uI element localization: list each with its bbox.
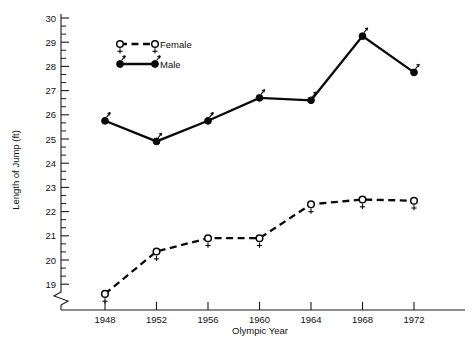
x-tick-label: 1960	[249, 314, 270, 325]
x-tick-label: 1968	[352, 314, 373, 325]
x-tick-label: 1952	[146, 314, 167, 325]
axis-break-zigzag-icon	[54, 288, 68, 310]
x-tick-label: 1964	[300, 314, 321, 325]
x-axis-title: Olympic Year	[232, 325, 288, 336]
male-symbol-icon	[109, 113, 110, 116]
data-point-male	[102, 117, 109, 124]
data-point-female	[153, 248, 160, 255]
data-point-male	[411, 69, 418, 76]
data-point-male	[256, 94, 263, 101]
legend-marker-female	[152, 41, 159, 48]
data-point-male	[153, 138, 160, 145]
y-tick-label: 22	[45, 206, 56, 217]
y-tick-label: 30	[45, 13, 56, 24]
x-tick-label: 1948	[94, 314, 115, 325]
male-symbol-icon	[264, 90, 265, 93]
y-tick-label: 29	[45, 37, 56, 48]
y-tick-label: 23	[45, 182, 56, 193]
male-symbol-icon	[124, 56, 125, 59]
data-point-female	[308, 201, 315, 208]
male-symbol-icon	[161, 133, 162, 136]
chart-canvas: 192021222324252627282930 194819521956196…	[0, 0, 473, 347]
legend-marker-male	[117, 61, 124, 68]
y-tick-label: 24	[45, 158, 56, 169]
x-tick-label: 1956	[197, 314, 218, 325]
y-tick-label: 25	[45, 134, 56, 145]
data-point-male	[308, 97, 315, 104]
y-axis: 192021222324252627282930	[45, 13, 69, 290]
male-symbol-icon	[315, 92, 316, 95]
legend-label-male: Male	[160, 59, 181, 70]
y-tick-label: 21	[45, 230, 56, 241]
y-tick-label: 20	[45, 255, 56, 266]
data-point-female	[359, 196, 366, 203]
x-tick-label: 1972	[403, 314, 424, 325]
y-tick-label: 26	[45, 109, 56, 120]
legend-marker-male	[152, 61, 159, 68]
data-point-female	[205, 235, 212, 242]
y-tick-label: 27	[45, 85, 56, 96]
male-symbol-icon	[418, 64, 419, 67]
data-point-female	[102, 291, 109, 298]
data-point-male	[205, 117, 212, 124]
male-symbol-icon	[367, 28, 368, 31]
y-tick-label: 28	[45, 61, 56, 72]
data-point-male	[359, 33, 366, 40]
data-series-group	[102, 28, 420, 303]
data-point-female	[256, 235, 263, 242]
legend-marker-female	[117, 41, 124, 48]
series-line-male	[105, 36, 414, 141]
legend-label-female: Female	[160, 39, 192, 50]
y-tick-label: 19	[45, 279, 56, 290]
data-point-female	[411, 197, 418, 204]
y-axis-title: Length of Jump (ft)	[10, 130, 21, 210]
y-axis-break-icon	[54, 288, 68, 310]
jump-length-line-chart: 192021222324252627282930 194819521956196…	[0, 0, 473, 347]
chart-legend: FemaleMale	[117, 39, 192, 70]
male-symbol-icon	[212, 113, 213, 116]
x-axis: 1948195219561960196419681972	[61, 302, 465, 325]
